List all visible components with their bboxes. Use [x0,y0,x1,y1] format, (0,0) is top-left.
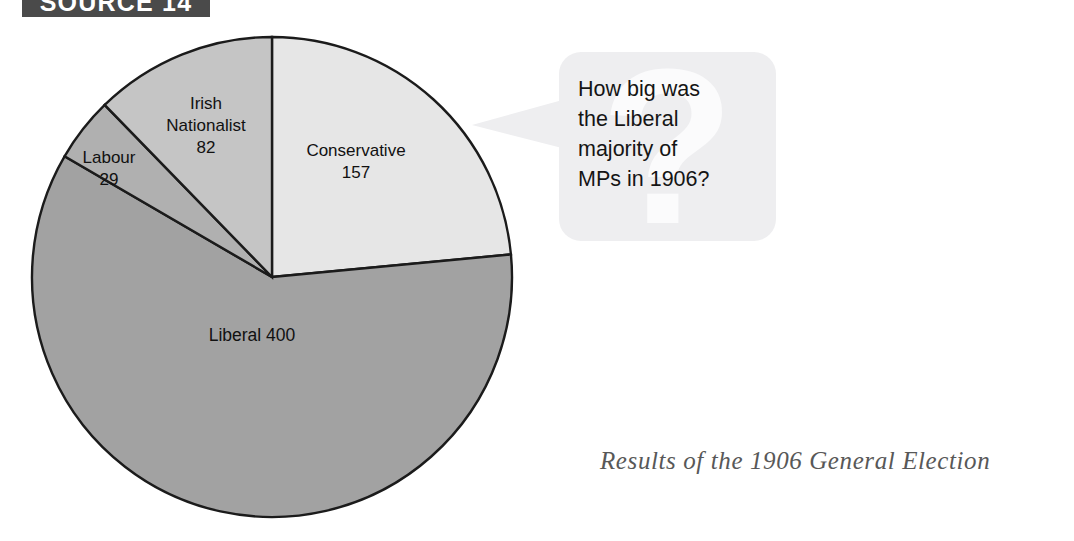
figure-caption: Results of the 1906 General Election [600,447,990,475]
pie-chart-svg: Conservative157Liberal 400Labour29IrishN… [0,0,560,541]
slice-label-line: 157 [342,163,370,182]
question-line: MPs in 1906? [578,164,764,194]
question-line: the Liberal [578,104,764,134]
source-figure-page: SOURCE 14 Conservative157Liberal 400Labo… [0,0,1074,541]
question-line: How big was [578,74,764,104]
speech-bubble: ? How big was the Liberal majority of MP… [559,52,776,241]
slice-label-line: 29 [100,170,119,189]
slice-label-line: Liberal 400 [209,325,296,345]
pie-chart: Conservative157Liberal 400Labour29IrishN… [0,0,560,541]
speech-bubble-tail [470,95,566,151]
slice-label-line: 82 [197,138,216,157]
slice-label-line: Irish [190,94,222,113]
pie-slices [32,37,512,517]
slice-label-line: Conservative [306,141,405,160]
slice-label-line: Nationalist [166,116,246,135]
slice-label-liberal: Liberal 400 [209,325,296,345]
slice-label-line: Labour [83,148,136,167]
question-line: majority of [578,134,764,164]
speech-bubble-question: How big was the Liberal majority of MPs … [578,74,764,194]
